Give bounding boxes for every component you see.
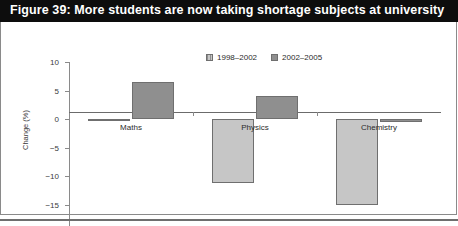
legend-label: 2002–2005: [282, 53, 322, 62]
legend-swatch-icon: [271, 54, 278, 61]
chart-frame: 1998–20022002–2005 Change (%) 1050−5−10−…: [0, 22, 457, 215]
y-axis-line: [69, 62, 70, 226]
bar: [256, 96, 298, 119]
y-axis-tick: [65, 205, 69, 206]
category-label: Maths: [120, 123, 142, 132]
figure-title-banner: Figure 39: More students are now taking …: [0, 0, 458, 22]
x-axis-tick: [193, 112, 194, 116]
y-axis-tick-label: 10: [50, 58, 59, 67]
y-axis-tick: [65, 62, 69, 63]
legend-label: 1998–2002: [217, 53, 257, 62]
y-axis-tick-label: −10: [45, 172, 59, 181]
zero-baseline: [69, 112, 441, 113]
bar: [380, 119, 422, 122]
chart-legend: 1998–20022002–2005: [206, 53, 322, 62]
category-label: Physics: [241, 123, 269, 132]
legend-swatch-icon: [206, 54, 213, 61]
legend-item: 2002–2005: [271, 53, 322, 62]
y-axis-tick: [65, 91, 69, 92]
category-label: Chemistry: [361, 123, 397, 132]
y-axis-tick-label: −15: [45, 200, 59, 209]
y-axis-tick: [65, 148, 69, 149]
y-axis-tick-label: 5: [55, 86, 59, 95]
y-axis-tick: [65, 176, 69, 177]
plot-area: 1050−5−10−15−20 MathsPhysicsChemistry: [69, 62, 441, 226]
page-title: Figure 39: More students are now taking …: [10, 3, 444, 17]
bar: [88, 119, 130, 121]
x-axis-tick: [317, 112, 318, 116]
footer-rule: [0, 219, 458, 221]
legend-item: 1998–2002: [206, 53, 257, 62]
y-axis-tick: [65, 119, 69, 120]
y-axis-tick-label: −5: [50, 143, 59, 152]
figure-container: Figure 39: More students are now taking …: [0, 0, 458, 226]
y-axis-tick-label: 0: [55, 115, 59, 124]
bar: [132, 82, 174, 119]
y-axis-title: Change (%): [21, 110, 30, 150]
